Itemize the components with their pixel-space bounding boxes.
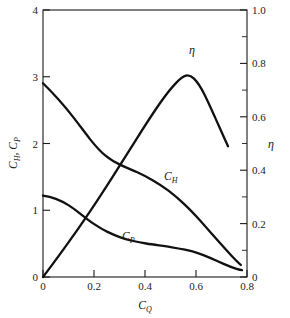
bottom-axis-ticks [43,270,247,277]
x-tick-label-0.4: 0.4 [138,280,152,292]
eta-curve [43,75,228,277]
right-tick-label-1.0: 1.0 [252,4,266,16]
x-tick-label-0.6: 0.6 [189,280,203,292]
left-axis-ticks [43,10,50,277]
left-axis-title-cp-sub: P [13,137,22,143]
left-tick-label-2: 2 [33,138,39,150]
data-curves [43,75,242,277]
svg-text:CQ: CQ [138,299,152,314]
right-tick-label-0.6: 0.6 [252,111,266,123]
right-tick-label-0: 0 [252,271,258,283]
bottom-axis-title: CQ [138,299,152,314]
x-tick-label-0: 0 [40,280,46,292]
left-axis-title: CH, CP [7,137,22,169]
x-axis-title-sub: Q [146,305,152,314]
right-axis-tick-labels: 1.0 0.8 0.6 0.4 0.2 0 [252,4,266,283]
pump-performance-chart: 4 3 2 1 0 CH, CP 0 0.2 0.4 0.6 0.8 [0,0,290,318]
x-tick-label-0.2: 0.2 [87,280,101,292]
right-axis-title: η [268,137,274,151]
chart-page: 4 3 2 1 0 CH, CP 0 0.2 0.4 0.6 0.8 [0,0,290,318]
right-tick-label-0.4: 0.4 [252,164,266,176]
right-tick-label-0.2: 0.2 [252,218,266,230]
right-tick-label-0.8: 0.8 [252,57,266,69]
left-tick-label-3: 3 [33,71,39,83]
ch-curve-label: CH [164,170,179,185]
left-tick-label-1: 1 [33,204,39,216]
left-axis-tick-labels: 4 3 2 1 0 [33,4,39,283]
cp-curve-label: CP [122,230,135,245]
left-tick-label-0: 0 [33,271,39,283]
bottom-axis-tick-labels: 0 0.2 0.4 0.6 0.8 [40,280,254,292]
eta-curve-label: η [189,43,195,57]
cp-curve-label-sub: P [129,236,135,245]
ch-curve-label-sub: H [171,176,179,185]
right-axis-minor-ticks [242,37,247,251]
left-tick-label-4: 4 [33,4,39,16]
svg-text:CH, CP: CH, CP [7,137,22,169]
